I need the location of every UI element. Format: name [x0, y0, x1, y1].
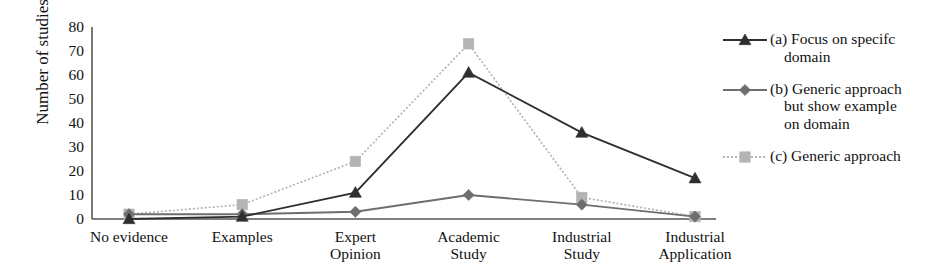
chart-figure: Number of studies 80706050403020100 No e…	[0, 0, 950, 279]
axis-lines	[92, 27, 716, 219]
data-point-marker	[689, 172, 701, 183]
legend-label-line: on domain	[784, 115, 950, 133]
data-series	[123, 67, 701, 224]
legend-label-line: but show example	[784, 97, 950, 115]
data-series	[124, 39, 700, 222]
data-point-marker	[576, 127, 588, 138]
data-point-marker	[463, 189, 474, 200]
chart-legend: (a) Focus on specifcdomain(b) Generic ap…	[722, 30, 950, 181]
legend-label: (a) Focus on specifcdomain	[770, 30, 950, 66]
legend-marker-triangle-icon	[722, 32, 768, 48]
series-line	[129, 73, 695, 219]
legend-marker-square-icon	[722, 149, 768, 165]
series-line	[129, 195, 695, 217]
legend-entry: (a) Focus on specifcdomain	[722, 30, 950, 66]
legend-entry: (c) Generic approach	[722, 147, 950, 167]
legend-label: (b) Generic approachbut show exampleon d…	[770, 80, 950, 133]
data-point-marker	[350, 206, 361, 217]
data-point-marker	[463, 67, 475, 78]
data-series-group	[123, 39, 701, 224]
legend-label-line: (c) Generic approach	[770, 147, 950, 165]
legend-label-line: (b) Generic approach	[770, 80, 950, 98]
legend-label: (c) Generic approach	[770, 147, 950, 165]
legend-entry: (b) Generic approachbut show exampleon d…	[722, 80, 950, 133]
data-point-marker	[350, 156, 360, 166]
legend-label-line: (a) Focus on specifc	[770, 30, 950, 48]
series-line	[129, 44, 695, 217]
legend-marker-diamond-icon	[722, 82, 768, 98]
data-point-marker	[463, 39, 473, 49]
legend-label-line: domain	[784, 48, 950, 66]
